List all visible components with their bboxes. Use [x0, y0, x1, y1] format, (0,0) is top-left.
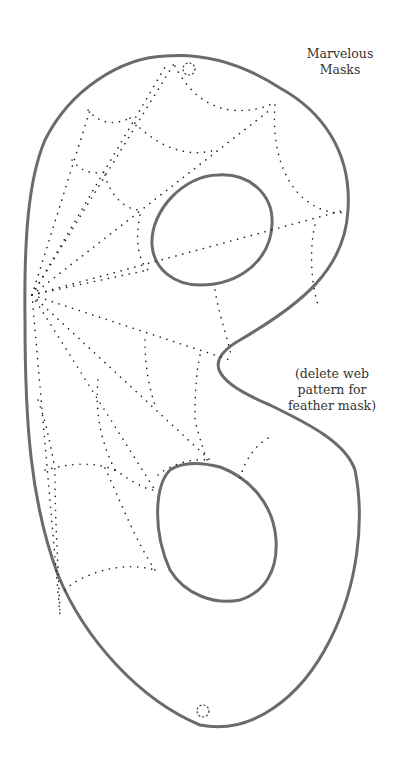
note-line-1: (delete web	[272, 366, 392, 382]
title-line-2: Masks	[300, 62, 380, 78]
note-line-2: pattern for	[272, 382, 392, 398]
title-line-1: Marvelous	[300, 46, 380, 62]
bottom-tie-hole	[197, 705, 209, 717]
page-title: Marvelous Masks	[300, 46, 380, 78]
upper-eye-hole	[152, 175, 272, 285]
instruction-note: (delete web pattern for feather mask)	[272, 366, 392, 414]
lower-eye-hole	[158, 464, 277, 602]
note-line-3: feather mask)	[272, 398, 392, 414]
top-tie-hole	[183, 63, 195, 75]
spider-web-dotted-pattern	[32, 62, 345, 615]
